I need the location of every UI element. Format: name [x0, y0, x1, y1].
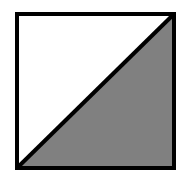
- square-diagonal-diagram: [0, 0, 196, 179]
